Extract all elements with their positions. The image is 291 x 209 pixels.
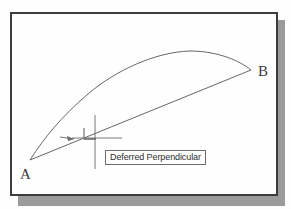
point-label-b: B bbox=[258, 64, 268, 79]
point-label-a: A bbox=[20, 167, 31, 182]
figure-stage: A B Deferred Perpendicular bbox=[0, 0, 291, 209]
osnap-tooltip: Deferred Perpendicular bbox=[105, 150, 206, 165]
line-geometry-icon bbox=[30, 70, 251, 160]
arc-geometry-icon bbox=[30, 51, 251, 160]
drawing-canvas bbox=[10, 12, 278, 196]
